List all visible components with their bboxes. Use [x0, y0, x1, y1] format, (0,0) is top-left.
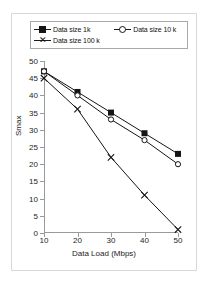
- x-cross-marker-icon: ✕: [34, 36, 51, 45]
- y-tick-label: 25: [29, 143, 38, 152]
- chart-figure: Data size 1k Data size 10 k ✕ Data size …: [0, 0, 208, 285]
- data-point-marker: [175, 162, 180, 167]
- legend-row-2: ✕ Data size 100 k: [34, 35, 185, 46]
- data-point-marker: [108, 110, 114, 116]
- legend-row-1: Data size 1k Data size 10 k: [34, 24, 185, 35]
- y-tick-label: 20: [29, 160, 38, 169]
- series-line: [44, 78, 178, 229]
- legend-label-1: Data size 1k: [53, 25, 90, 34]
- y-tick-label: 30: [29, 125, 38, 134]
- x-tick-label: 10: [40, 236, 49, 245]
- legend-item-data-size-10k: Data size 10 k: [114, 25, 185, 34]
- y-tick-label: 0: [34, 229, 38, 238]
- data-point-marker: [175, 226, 181, 232]
- y-tick-label: 15: [29, 177, 38, 186]
- filled-square-marker-icon: [34, 25, 51, 34]
- legend-item-data-size-1k: Data size 1k: [34, 25, 114, 34]
- chart-legend: Data size 1k Data size 10 k ✕ Data size …: [30, 21, 188, 49]
- data-point-marker: [75, 93, 80, 98]
- x-axis-label: Data Load (Mbps): [0, 249, 208, 258]
- series-3: [41, 75, 181, 233]
- data-point-marker: [74, 106, 80, 112]
- series-plot: [44, 61, 178, 233]
- y-tick-label: 10: [29, 194, 38, 203]
- data-point-marker: [141, 192, 147, 198]
- legend-label-2: Data size 10 k: [133, 25, 176, 34]
- x-tick-label: 30: [107, 236, 116, 245]
- data-point-marker: [41, 69, 46, 74]
- x-tick-label: 40: [140, 236, 149, 245]
- x-tick-label: 50: [174, 236, 183, 245]
- y-tick-label: 50: [29, 57, 38, 66]
- data-point-marker: [108, 117, 113, 122]
- y-tick-label: 40: [29, 91, 38, 100]
- data-point-marker: [142, 138, 147, 143]
- y-tick-label: 5: [34, 211, 38, 220]
- data-point-marker: [175, 151, 181, 157]
- open-circle-marker-icon: [114, 25, 131, 34]
- legend-item-data-size-100k: ✕ Data size 100 k: [34, 36, 134, 45]
- legend-label-3: Data size 100 k: [53, 36, 100, 45]
- y-tick-label: 45: [29, 74, 38, 83]
- series-1: [41, 68, 181, 157]
- plot-area: 05101520253035404550 1020304050: [44, 61, 178, 233]
- x-tick-label: 20: [73, 236, 82, 245]
- y-axis-label: Smax: [14, 116, 23, 136]
- series-2: [41, 69, 180, 167]
- y-tick-label: 35: [29, 108, 38, 117]
- data-point-marker: [142, 130, 148, 136]
- data-point-marker: [108, 154, 114, 160]
